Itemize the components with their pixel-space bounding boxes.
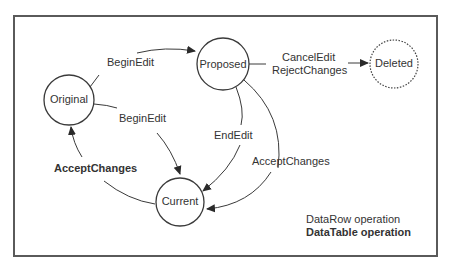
edge-label-acceptchanges-datarow: AcceptChanges: [252, 155, 330, 168]
edge-label-endedit: EndEdit: [214, 129, 253, 142]
edge-proposed-current-endedit: [236, 87, 242, 125]
edge-original-current: [94, 104, 117, 108]
edge-current-original-arrow: [71, 127, 82, 157]
legend-datatable: DataTable operation: [306, 226, 411, 239]
edge-label-beginedit-current: BeginEdit: [119, 112, 166, 125]
edge-label-acceptchanges-datatable: AcceptChanges: [54, 162, 137, 175]
node-proposed-label: Proposed: [195, 58, 251, 71]
node-original-label: Original: [44, 93, 94, 106]
edge-proposed-current-endedit-arrow: [203, 145, 240, 191]
edge-label-beginedit-proposed: BeginEdit: [107, 56, 154, 69]
edge-original-proposed-arrow: [137, 49, 195, 53]
edge-current-original: [104, 181, 155, 204]
legend-datarow: DataRow operation: [306, 213, 400, 226]
edge-original-proposed: [90, 75, 99, 87]
edge-proposed-current-accept-arrow: [207, 172, 271, 209]
edge-label-rejectchanges: RejectChanges: [272, 64, 347, 77]
node-current-label: Current: [154, 195, 206, 208]
edge-label-canceledit: CancelEdit: [282, 51, 335, 64]
node-deleted-label: Deleted: [368, 57, 420, 70]
edge-original-current-arrow: [157, 133, 180, 174]
